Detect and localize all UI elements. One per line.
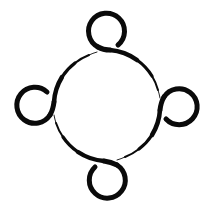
community-circle-icon bbox=[0, 0, 209, 217]
head-top-icon bbox=[89, 13, 160, 98]
head-bottom-icon bbox=[54, 115, 125, 198]
head-left-icon bbox=[17, 52, 97, 123]
head-right-icon bbox=[117, 89, 197, 160]
